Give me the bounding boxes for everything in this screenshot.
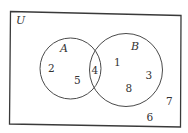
element-2: 2 <box>48 62 55 74</box>
element-4: 4 <box>92 64 99 76</box>
venn-diagram: U A B 2 5 4 1 3 8 7 6 <box>0 0 188 133</box>
element-1: 1 <box>114 56 121 68</box>
universe-label: U <box>16 14 26 27</box>
set-a-label: A <box>59 42 68 55</box>
element-6: 6 <box>147 111 154 123</box>
element-3: 3 <box>146 69 153 81</box>
element-8: 8 <box>126 82 133 94</box>
set-b-label: B <box>130 40 139 53</box>
element-5: 5 <box>74 74 81 86</box>
element-7: 7 <box>166 95 173 107</box>
